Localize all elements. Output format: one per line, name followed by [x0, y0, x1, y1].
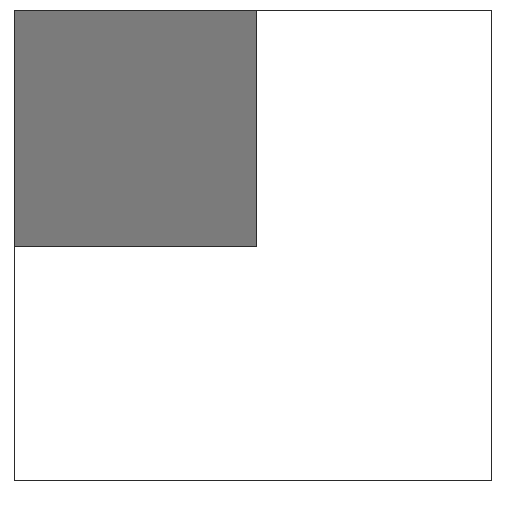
filled-quarter-square	[14, 10, 257, 247]
